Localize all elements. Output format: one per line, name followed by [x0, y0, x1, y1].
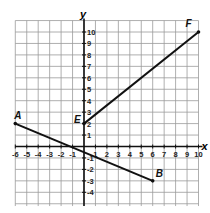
x-tick-label: 4 — [128, 150, 133, 159]
x-tick-label: -6 — [12, 150, 19, 159]
grid — [15, 21, 198, 206]
x-tick-label: 6 — [151, 150, 155, 159]
point-b — [151, 179, 155, 183]
x-tick-label: 7 — [162, 150, 166, 159]
y-tick-label: -4 — [87, 188, 94, 197]
y-tick-label: 9 — [87, 39, 91, 48]
y-tick-label: 5 — [87, 85, 91, 94]
y-tick-label: 3 — [87, 108, 91, 117]
x-axis-label: x — [201, 140, 209, 152]
y-tick-label: 10 — [87, 28, 95, 37]
point-a — [14, 122, 18, 126]
point-label-b: B — [156, 168, 163, 179]
x-tick-label: 2 — [105, 150, 109, 159]
y-tick-label: -3 — [87, 177, 94, 186]
y-tick-label: 6 — [87, 74, 91, 83]
y-tick-label: 4 — [87, 97, 92, 106]
x-tick-label: 5 — [139, 150, 143, 159]
y-tick-label: -2 — [87, 165, 94, 174]
y-tick-label: 8 — [87, 51, 91, 60]
point-e — [82, 122, 86, 126]
y-tick-label: 1 — [87, 131, 91, 140]
x-tick-label: -3 — [46, 150, 53, 159]
point-label-e: E — [74, 114, 81, 125]
point-label-a: A — [13, 110, 21, 121]
x-tick-label: -1 — [69, 150, 76, 159]
y-axis-label: y — [79, 8, 87, 20]
point-f — [197, 30, 201, 34]
x-tick-label: -2 — [58, 150, 65, 159]
y-tick-label: 7 — [87, 62, 91, 71]
x-tick-label: 8 — [174, 150, 178, 159]
point-label-f: F — [186, 18, 193, 29]
x-tick-label: 3 — [116, 150, 120, 159]
tick-labels: -6-5-4-3-2-112345678910-4-3-2-1123456789… — [12, 28, 203, 197]
x-tick-label: 9 — [185, 150, 189, 159]
x-tick-label: -4 — [35, 150, 42, 159]
coordinate-plane: -6-5-4-3-2-112345678910-4-3-2-1123456789… — [0, 0, 210, 213]
x-tick-label: -5 — [23, 150, 30, 159]
